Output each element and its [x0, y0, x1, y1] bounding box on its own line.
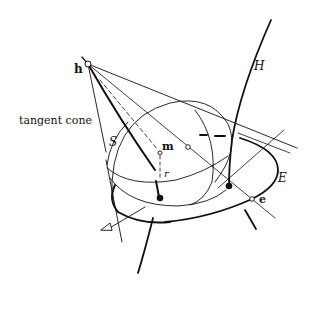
label-r: r [164, 168, 170, 179]
cone-line-left [88, 64, 106, 152]
tangent-line-E-2 [238, 133, 290, 153]
label-e: e [259, 193, 266, 206]
normal-arrow-shaft [108, 207, 145, 229]
label-h: h [74, 62, 83, 76]
curve-lower-branch [138, 218, 153, 273]
cone-line-top [88, 64, 297, 148]
point-h [85, 61, 91, 67]
point-e [250, 197, 255, 202]
dot-H-end [226, 183, 233, 190]
tangent-cone-diagram: h H tangent cone S m r E e [0, 0, 311, 313]
thick-segment-to-dot [156, 181, 159, 197]
label-m: m [162, 140, 174, 153]
thick-curve-inner [88, 64, 155, 170]
label-H: H [253, 59, 265, 73]
label-E: E [277, 171, 287, 185]
dot-sphere-bottom [157, 195, 164, 202]
arrow-head-icon [101, 223, 112, 230]
label-S: S [109, 135, 117, 149]
sphere-equator-lower [110, 178, 226, 206]
thick-curve-lower-left [112, 185, 170, 223]
curve-H [229, 20, 271, 186]
label-tangent-cone: tangent cone [19, 114, 92, 127]
point-tangency [186, 145, 191, 150]
short-tick-e [245, 210, 256, 229]
